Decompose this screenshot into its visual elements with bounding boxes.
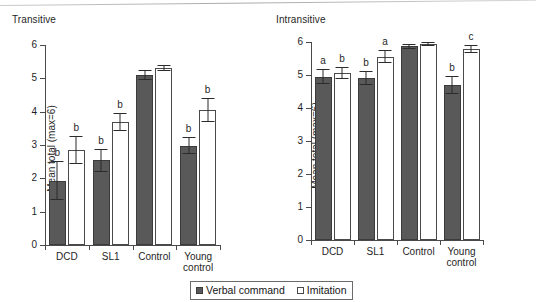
y-axis-line	[45, 45, 46, 245]
error-bar-cap-top	[360, 71, 373, 72]
error-bar-cap-bottom	[379, 62, 392, 63]
bar-imitation	[68, 150, 85, 245]
bar-imitation	[112, 122, 129, 245]
error-bar-cap-top	[70, 136, 83, 137]
y-axis-tick	[306, 174, 311, 175]
legend-swatch-verbal-icon	[196, 287, 203, 294]
significance-letter: b	[180, 124, 198, 134]
error-bar-cap-bottom	[51, 199, 64, 200]
bar-verbal-command	[180, 146, 197, 245]
plot-area-intransitive: 0123456DCDabSL1baControlYoung controlbc	[311, 42, 483, 240]
error-bar-cap-bottom	[446, 93, 459, 94]
error-bar-cap-top	[336, 67, 349, 68]
y-axis-tick	[306, 75, 311, 76]
bar-verbal-command	[315, 77, 332, 240]
y-axis-tick-label: 4	[281, 103, 303, 113]
error-bar-stem	[207, 98, 208, 123]
error-bar-cap-bottom	[182, 153, 195, 154]
error-bar-cap-top	[182, 137, 195, 138]
y-axis-tick-label: 5	[15, 73, 37, 83]
x-axis-tick	[176, 245, 177, 250]
y-axis-tick	[40, 45, 45, 46]
error-bar-cap-bottom	[422, 45, 435, 46]
bar-verbal-command	[444, 85, 461, 240]
significance-letter: a	[314, 56, 332, 66]
bar-verbal-command	[401, 46, 418, 240]
error-bar	[463, 45, 480, 54]
y-axis-tick	[40, 145, 45, 146]
x-axis-tick	[89, 245, 90, 250]
error-bar-stem	[101, 149, 102, 172]
error-bar	[112, 113, 129, 132]
legend-item-verbal-command: Verbal command	[196, 284, 285, 296]
error-bar-cap-bottom	[403, 48, 416, 49]
error-bar	[49, 161, 66, 200]
legend-swatch-imitation-icon	[297, 287, 304, 294]
chart-panel-intransitive: Intransitive Mean total (max=6) 0123456D…	[268, 0, 536, 302]
legend-label-verbal-command: Verbal command	[206, 284, 285, 296]
error-bar-cap-top	[379, 50, 392, 51]
bar-imitation	[463, 49, 480, 240]
error-bar-cap-bottom	[114, 130, 127, 131]
error-bar	[68, 136, 85, 164]
y-axis-tick	[306, 141, 311, 142]
x-axis-tick	[133, 245, 134, 250]
significance-letter: b	[357, 58, 375, 68]
error-bar-cap-top	[317, 69, 330, 70]
error-bar-cap-bottom	[138, 79, 151, 80]
bar-imitation	[155, 68, 172, 245]
error-bar	[315, 69, 332, 84]
bar-imitation	[420, 44, 437, 240]
error-bar-cap-bottom	[70, 163, 83, 164]
error-bar	[93, 149, 110, 172]
chart-title-transitive: Transitive	[12, 14, 56, 25]
error-bar	[444, 76, 461, 94]
chart-title-intransitive: Intransitive	[276, 14, 326, 25]
x-axis-category-label: Young control	[168, 251, 228, 273]
significance-letter: b	[92, 136, 110, 146]
error-bar-cap-top	[201, 98, 214, 99]
error-bar	[420, 42, 437, 46]
y-axis-tick-label: 3	[281, 136, 303, 146]
error-bar	[334, 67, 351, 79]
x-axis-tick	[220, 245, 221, 250]
bar-verbal-command	[93, 160, 110, 245]
error-bar-stem	[120, 113, 121, 132]
error-bar-cap-top	[422, 42, 435, 43]
error-bar-stem	[188, 137, 189, 154]
bar-imitation	[334, 73, 351, 240]
error-bar	[180, 137, 197, 154]
y-axis-tick-label: 0	[281, 235, 303, 245]
error-bar	[377, 50, 394, 63]
y-axis-tick-label: 0	[15, 240, 37, 250]
error-bar-stem	[57, 161, 58, 200]
y-axis-tick	[40, 178, 45, 179]
legend-label-imitation: Imitation	[307, 284, 347, 296]
x-axis-tick	[354, 240, 355, 245]
error-bar-cap-top	[114, 113, 127, 114]
significance-letter: b	[48, 148, 66, 158]
y-axis-tick-label: 4	[15, 107, 37, 117]
error-bar	[199, 98, 216, 123]
error-bar-cap-bottom	[201, 121, 214, 122]
significance-letter: b	[333, 54, 351, 64]
error-bar-cap-bottom	[157, 70, 170, 71]
y-axis-tick-label: 6	[15, 40, 37, 50]
plot-area-transitive: 0123456DCDbbSL1bbControlYoung controlbb	[45, 45, 220, 245]
error-bar-stem	[452, 76, 453, 94]
bar-imitation	[377, 57, 394, 240]
error-bar-stem	[76, 136, 77, 164]
y-axis-tick-label: 1	[281, 202, 303, 212]
x-axis-tick	[45, 245, 46, 250]
y-axis-line	[311, 42, 312, 240]
x-axis-tick	[440, 240, 441, 245]
legend-item-imitation: Imitation	[297, 284, 347, 296]
x-axis-tick	[397, 240, 398, 245]
y-axis-tick-label: 3	[15, 140, 37, 150]
y-axis-tick-label: 6	[281, 37, 303, 47]
significance-letter: b	[443, 63, 461, 73]
x-axis-tick	[311, 240, 312, 245]
error-bar-cap-bottom	[95, 171, 108, 172]
y-axis-tick	[40, 78, 45, 79]
error-bar	[155, 65, 172, 72]
